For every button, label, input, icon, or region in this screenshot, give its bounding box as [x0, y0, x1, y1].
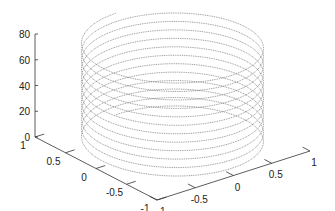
y-tick	[96, 166, 105, 169]
y-tick	[35, 134, 44, 137]
x-tick	[226, 172, 233, 176]
y-tick	[157, 197, 166, 200]
helix-series-path	[82, 13, 264, 176]
x-tick-label: -1	[157, 206, 166, 211]
y-tick-label: 0.5	[47, 156, 61, 167]
helix-line	[82, 13, 264, 176]
x-tick-label: 0.5	[269, 169, 283, 180]
z-tick-label: 40	[19, 81, 31, 92]
x-tick-label: -0.5	[191, 194, 209, 205]
y-tick	[66, 150, 75, 153]
x-tick-label: 1	[311, 157, 317, 168]
z-tick-label: 20	[19, 106, 31, 117]
x-tick	[303, 147, 310, 151]
y-tick-label: 0	[81, 172, 87, 183]
x-tick	[188, 184, 195, 188]
x-tick	[264, 159, 271, 163]
z-tick-label: 80	[19, 29, 31, 40]
helix-3d-plot: 02040608010.50-0.5-1-1-0.500.51	[0, 0, 335, 211]
y-tick-label: -1	[141, 203, 150, 211]
x-tick	[150, 196, 157, 200]
y-tick-label: -0.5	[106, 187, 124, 198]
y-tick	[127, 181, 136, 184]
z-tick-label: 60	[19, 55, 31, 66]
tick-labels: 02040608010.50-0.5-1-1-0.500.51	[19, 29, 317, 211]
y-tick-label: 1	[20, 140, 26, 151]
x-tick-label: 0	[235, 182, 241, 193]
